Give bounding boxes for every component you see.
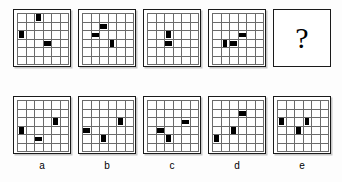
option-label-b: b bbox=[78, 160, 136, 171]
grid-cell bbox=[35, 101, 44, 110]
grid-cell bbox=[230, 31, 239, 40]
grid-cell bbox=[100, 127, 109, 136]
grid-cell bbox=[117, 110, 126, 119]
grid-cell bbox=[239, 127, 248, 136]
sequence-panel-2 bbox=[78, 9, 136, 67]
grid-cell bbox=[312, 144, 321, 153]
grid-cell bbox=[222, 101, 231, 110]
grid-cell bbox=[256, 14, 265, 23]
grid-cell bbox=[157, 127, 166, 136]
grid-cell bbox=[174, 14, 183, 23]
grid-cell bbox=[213, 135, 222, 144]
grid-cell bbox=[92, 40, 101, 49]
grid-cell bbox=[191, 23, 200, 32]
grid-cell bbox=[18, 14, 27, 23]
grid-cell bbox=[18, 23, 27, 32]
option-a[interactable] bbox=[13, 96, 71, 154]
grid-cell bbox=[312, 118, 321, 127]
grid-cell bbox=[157, 110, 166, 119]
grid-cell bbox=[100, 110, 109, 119]
grid-cell bbox=[239, 110, 248, 119]
grid-cell bbox=[109, 110, 118, 119]
grid-cell bbox=[18, 57, 27, 66]
grid-cell bbox=[222, 48, 231, 57]
grid-cell bbox=[61, 127, 70, 136]
grid-cell bbox=[83, 48, 92, 57]
grid-cell bbox=[256, 118, 265, 127]
grid-cell bbox=[92, 101, 101, 110]
grid-cell bbox=[230, 101, 239, 110]
grid-cell bbox=[35, 14, 44, 23]
grid-cell bbox=[117, 57, 126, 66]
grid-cell bbox=[27, 127, 36, 136]
grid-cell bbox=[213, 23, 222, 32]
grid-cell bbox=[239, 144, 248, 153]
grid-cell bbox=[191, 144, 200, 153]
grid-cell bbox=[52, 110, 61, 119]
grid-cell bbox=[247, 101, 256, 110]
option-b[interactable] bbox=[78, 96, 136, 154]
filled-mark bbox=[305, 118, 310, 125]
cell-grid bbox=[82, 100, 134, 152]
grid-cell bbox=[148, 40, 157, 49]
grid-cell bbox=[18, 31, 27, 40]
grid-cell bbox=[278, 144, 287, 153]
grid-cell bbox=[61, 40, 70, 49]
grid-cell bbox=[117, 101, 126, 110]
grid-cell bbox=[117, 40, 126, 49]
grid-cell bbox=[247, 40, 256, 49]
grid-cell bbox=[35, 135, 44, 144]
cell-grid bbox=[82, 13, 134, 65]
grid-cell bbox=[278, 110, 287, 119]
grid-cell bbox=[213, 48, 222, 57]
grid-cell bbox=[157, 135, 166, 144]
grid-cell bbox=[256, 144, 265, 153]
grid-cell bbox=[83, 57, 92, 66]
grid-cell bbox=[247, 57, 256, 66]
grid-cell bbox=[278, 135, 287, 144]
grid-cell bbox=[182, 48, 191, 57]
grid-cell bbox=[239, 101, 248, 110]
grid-cell bbox=[126, 135, 135, 144]
grid-cell bbox=[222, 127, 231, 136]
question-panel: ? bbox=[273, 9, 331, 67]
grid-cell bbox=[213, 118, 222, 127]
grid-cell bbox=[27, 144, 36, 153]
grid-cell bbox=[126, 14, 135, 23]
grid-cell bbox=[239, 118, 248, 127]
grid-cell bbox=[35, 144, 44, 153]
option-label-e: e bbox=[273, 160, 331, 171]
grid-cell bbox=[61, 48, 70, 57]
grid-cell bbox=[44, 144, 53, 153]
option-c[interactable] bbox=[143, 96, 201, 154]
grid-cell bbox=[18, 118, 27, 127]
grid-cell bbox=[213, 144, 222, 153]
grid-cell bbox=[256, 23, 265, 32]
grid-cell bbox=[44, 57, 53, 66]
grid-cell bbox=[27, 101, 36, 110]
grid-cell bbox=[222, 144, 231, 153]
grid-cell bbox=[247, 144, 256, 153]
grid-cell bbox=[174, 40, 183, 49]
grid-cell bbox=[126, 40, 135, 49]
grid-cell bbox=[174, 110, 183, 119]
grid-cell bbox=[222, 135, 231, 144]
grid-cell bbox=[174, 135, 183, 144]
panel-frame bbox=[208, 9, 266, 67]
grid-cell bbox=[213, 14, 222, 23]
filled-mark bbox=[19, 31, 24, 38]
grid-cell bbox=[109, 40, 118, 49]
grid-cell bbox=[174, 57, 183, 66]
filled-mark bbox=[230, 41, 237, 46]
grid-cell bbox=[321, 101, 330, 110]
grid-cell bbox=[230, 48, 239, 57]
grid-cell bbox=[182, 135, 191, 144]
option-e[interactable] bbox=[273, 96, 331, 154]
grid-cell bbox=[44, 14, 53, 23]
grid-cell bbox=[126, 57, 135, 66]
grid-cell bbox=[256, 31, 265, 40]
grid-cell bbox=[287, 101, 296, 110]
grid-cell bbox=[35, 40, 44, 49]
option-d[interactable] bbox=[208, 96, 266, 154]
grid-cell bbox=[222, 31, 231, 40]
